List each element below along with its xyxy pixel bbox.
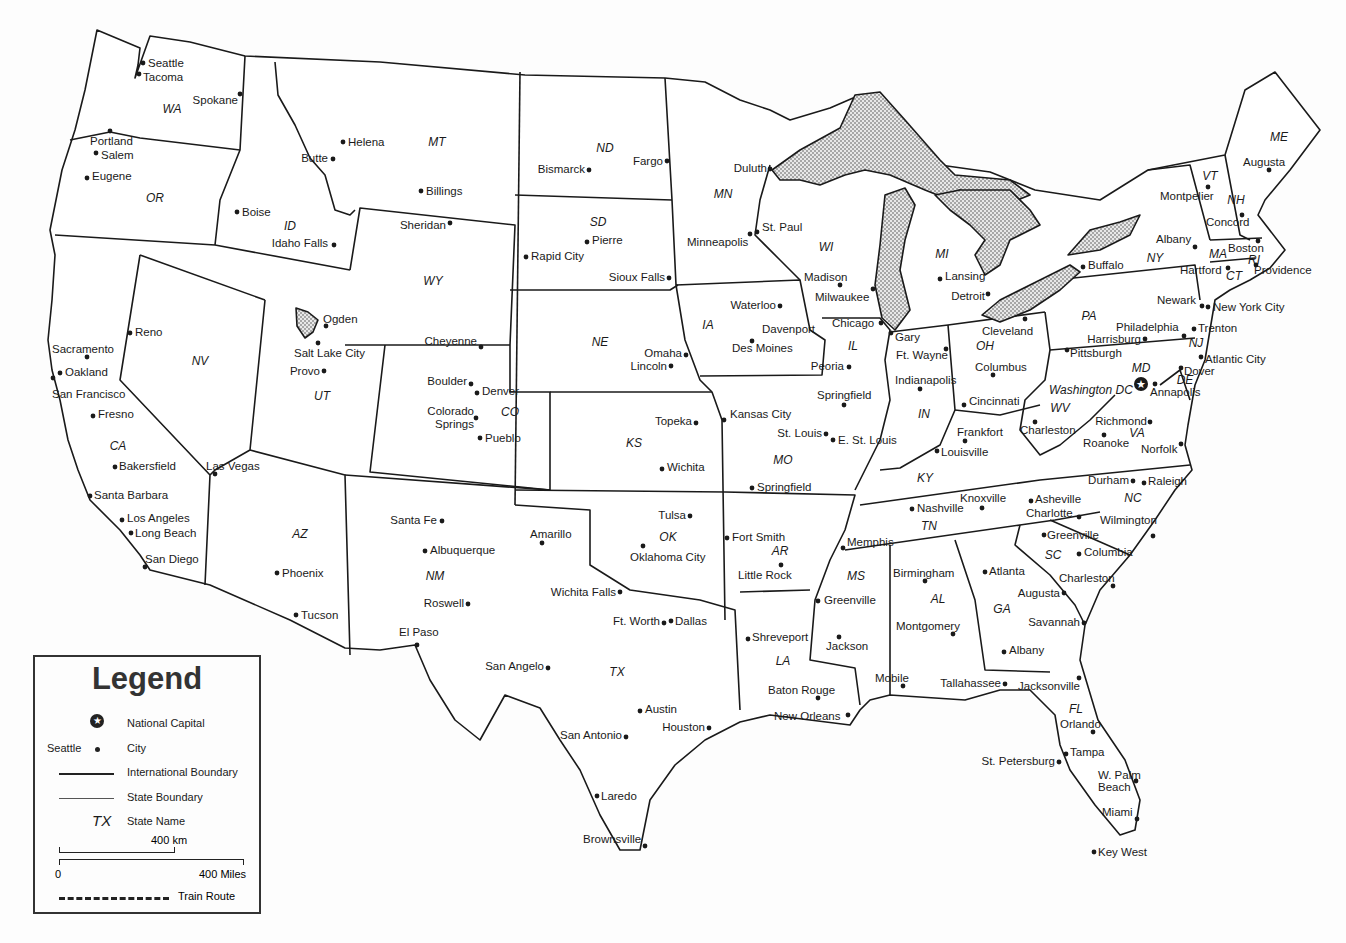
city-marker: Dover xyxy=(1179,365,1215,377)
city-marker: Richmond xyxy=(1095,415,1152,427)
city-marker: Duluth xyxy=(734,162,773,174)
city-label: Tallahassee xyxy=(940,677,1001,689)
city-label: Cleveland xyxy=(982,325,1033,337)
city-label: Springfield xyxy=(817,389,871,401)
city-marker: Ft. Worth xyxy=(613,615,666,627)
city-dot-icon xyxy=(419,189,424,194)
city-dot-icon xyxy=(1077,552,1082,557)
city-marker: Tucson xyxy=(294,609,339,621)
scale-bar-miles xyxy=(59,859,244,865)
city-label: Butte xyxy=(301,152,328,164)
city-dot-icon xyxy=(889,331,894,336)
city-marker: Sheridan xyxy=(400,219,452,231)
city-label: Jacksonville xyxy=(1018,680,1080,692)
city-dot-icon xyxy=(469,382,474,387)
city-marker: Wichita xyxy=(660,461,706,473)
state-label: OH xyxy=(976,339,994,353)
city-label: New Orleans xyxy=(774,710,841,722)
state-label: NC xyxy=(1124,491,1142,505)
city-marker: Bakersfield xyxy=(113,460,176,472)
city-dot-icon xyxy=(980,506,985,511)
city-dot-icon xyxy=(986,292,991,297)
state-label: OK xyxy=(659,530,677,544)
city-label: Frankfort xyxy=(957,426,1004,438)
city-label: Billings xyxy=(426,185,463,197)
city-label: Columbus xyxy=(975,361,1027,373)
state-label: GA xyxy=(993,602,1010,616)
state-label: AL xyxy=(930,592,946,606)
city-label: Pueblo xyxy=(485,432,521,444)
city-dot-icon xyxy=(1077,515,1082,520)
city-dot-icon xyxy=(755,230,760,235)
legend-label: State Name xyxy=(127,815,185,827)
state-label: MI xyxy=(935,247,949,261)
city-dot-icon xyxy=(1082,621,1087,626)
city-label: Memphis xyxy=(847,536,894,548)
city-dot-icon xyxy=(824,432,829,437)
city-label: New York City xyxy=(1213,301,1285,313)
city-label: E. St. Louis xyxy=(838,434,897,446)
city-marker: Dallas xyxy=(669,615,708,627)
city-dot-icon xyxy=(831,438,836,443)
city-label: Greenville xyxy=(824,594,876,606)
state-label: ID xyxy=(284,219,296,233)
city-marker: Long Beach xyxy=(129,527,197,539)
city-marker: Boulder xyxy=(427,375,473,387)
city-label: St. Paul xyxy=(762,221,802,233)
city-marker: Billings xyxy=(419,185,463,197)
city-label: Jackson xyxy=(826,640,868,652)
city-label: Richmond xyxy=(1095,415,1147,427)
city-label: Fresno xyxy=(98,408,134,420)
city-marker: Lansing xyxy=(938,270,986,282)
city-dot-icon xyxy=(722,418,727,423)
city-dot-icon xyxy=(641,544,646,549)
city-dot-icon xyxy=(322,369,327,374)
city-marker: Albany xyxy=(1002,644,1045,656)
city-dot-icon xyxy=(842,403,847,408)
state-label: SD xyxy=(590,215,607,229)
city-dot-icon xyxy=(768,167,773,172)
city-label: Helena xyxy=(348,136,385,148)
state-label: KY xyxy=(917,471,934,485)
city-label: Cheyenne xyxy=(425,335,477,347)
city-dot-icon xyxy=(938,277,943,282)
city-label: Albany xyxy=(1009,644,1044,656)
city-dot-icon xyxy=(746,637,751,642)
city-dot-icon xyxy=(448,221,453,226)
city-dot-icon xyxy=(478,436,483,441)
city-label: Louisville xyxy=(941,446,988,458)
city-dot-icon xyxy=(479,345,484,350)
city-label: Dover xyxy=(1184,365,1215,377)
city-dot-icon xyxy=(113,465,118,470)
city-dot-icon xyxy=(1064,752,1069,757)
city-dot-icon xyxy=(779,563,784,568)
legend-label: State Boundary xyxy=(127,791,203,803)
city-dot-icon xyxy=(1151,534,1156,539)
city-marker: Waterloo xyxy=(730,299,782,311)
legend-label: International Boundary xyxy=(127,766,238,778)
scale-km-label: 400 km xyxy=(151,834,187,846)
city-label: Boston xyxy=(1228,242,1264,254)
city-label: Duluth xyxy=(734,162,767,174)
city-dot-icon xyxy=(1091,730,1096,735)
city-label: San Antonio xyxy=(560,729,622,741)
city-marker: Tallahassee xyxy=(940,677,1007,689)
city-dot-icon xyxy=(440,519,445,524)
city-dot-icon xyxy=(341,140,346,145)
city-label: Boise xyxy=(242,206,271,218)
city-label: Norfolk xyxy=(1141,443,1178,455)
city-marker: Tacoma xyxy=(137,71,184,83)
city-label: Peoria xyxy=(811,360,845,372)
state-label: CO xyxy=(501,405,519,419)
city-marker: Beach xyxy=(1098,781,1131,793)
city-label: Houston xyxy=(662,721,705,733)
city-label: Pittsburgh xyxy=(1070,347,1122,359)
city-label: Montgomery xyxy=(896,620,960,632)
city-marker: Columbia xyxy=(1077,546,1134,558)
city-label: Sacramento xyxy=(52,343,114,355)
city-marker: Providence xyxy=(1254,263,1312,276)
city-marker: Trenton xyxy=(1192,322,1238,334)
city-dot-icon xyxy=(1148,420,1153,425)
city-marker: Norfolk xyxy=(1141,442,1183,455)
city-dot-icon xyxy=(837,635,842,640)
